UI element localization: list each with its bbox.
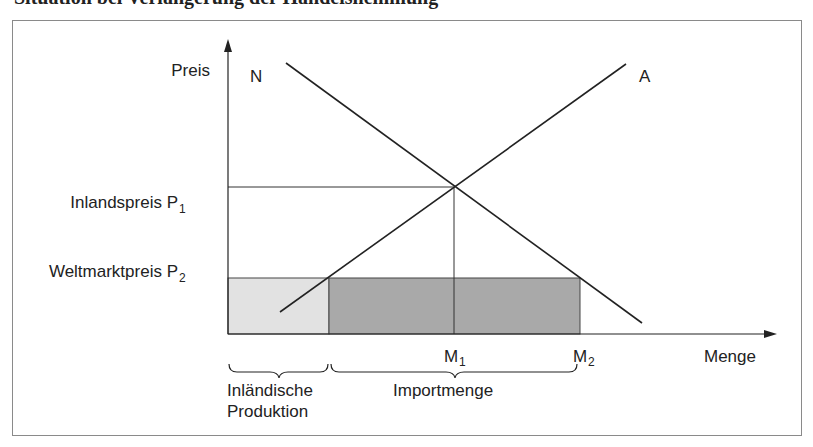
supply-curve: [280, 64, 626, 312]
supply-demand-diagram: Preis N A Inlandspreis P 1 Weltmarktprei…: [0, 0, 813, 447]
m2-label: M: [573, 347, 587, 366]
m1-subscript: 1: [459, 355, 466, 369]
supply-label: A: [639, 67, 651, 86]
domestic-production-label-1: Inländische: [227, 381, 313, 400]
m2-subscript: 2: [588, 355, 595, 369]
demand-label: N: [250, 67, 262, 86]
p1-subscript: 1: [179, 202, 186, 216]
domestic-brace: [229, 364, 328, 378]
domestic-production-label-2: Produktion: [227, 402, 308, 421]
p1-label: Inlandspreis P: [70, 193, 178, 212]
p2-subscript: 2: [179, 271, 186, 285]
domestic-production-area: [228, 278, 329, 334]
p2-label: Weltmarktpreis P: [49, 262, 178, 281]
y-axis-label: Preis: [171, 61, 210, 80]
import-quantity-label: Importmenge: [393, 381, 493, 400]
import-brace: [331, 364, 577, 378]
m1-label: M: [444, 347, 458, 366]
x-axis-arrow-icon: [764, 330, 777, 338]
x-axis-label: Menge: [704, 347, 756, 366]
y-axis-arrow-icon: [224, 39, 232, 52]
